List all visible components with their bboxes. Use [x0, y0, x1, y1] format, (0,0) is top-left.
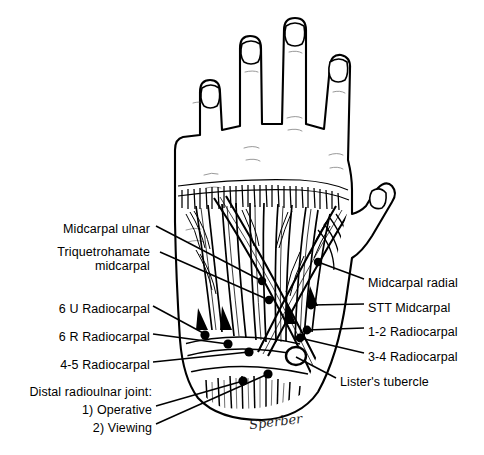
label-druj-operative: 1) Operative — [0, 403, 152, 417]
label-druj-viewing: 2) Viewing — [0, 421, 152, 435]
6r-radiocarpal-dot — [223, 339, 232, 348]
druj-operative-dot — [238, 376, 247, 385]
label-midcarpal-ulnar: Midcarpal ulnar — [0, 222, 150, 236]
1-2-radiocarpal-dot — [303, 326, 312, 335]
3-4-radiocarpal-dot — [296, 334, 305, 343]
druj-viewing-dot — [263, 369, 272, 378]
label-6r-radiocarpal: 6 R Radiocarpal — [0, 330, 150, 344]
leader-stt-midcarpal — [311, 304, 364, 305]
triquetrohamate-dot — [265, 296, 273, 304]
label-midcarpal-radial: Midcarpal radial — [368, 276, 458, 290]
label-stt-midcarpal: STT Midcarpal — [368, 301, 450, 315]
label-triquetrohamate-line2: midcarpal — [0, 259, 150, 273]
label-1-2-radiocarpal: 1-2 Radiocarpal — [368, 325, 458, 339]
listers-tubercle-marker — [286, 347, 306, 365]
label-listers-tubercle: Lister's tubercle — [340, 375, 429, 389]
midcarpal-radial-dot — [314, 258, 322, 266]
4-5-radiocarpal-dot — [244, 347, 253, 356]
label-distal-radioulnar-joint: Distal radioulnar joint: — [0, 385, 152, 399]
label-3-4-radiocarpal: 3-4 Radiocarpal — [368, 350, 458, 364]
6u-radiocarpal-dot — [200, 330, 209, 339]
label-6u-radiocarpal: 6 U Radiocarpal — [0, 302, 150, 316]
midcarpal-ulnar-dot — [258, 277, 266, 285]
label-triquetrohamate: Triquetrohamate — [0, 245, 150, 259]
label-4-5-radiocarpal: 4-5 Radiocarpal — [0, 358, 150, 372]
